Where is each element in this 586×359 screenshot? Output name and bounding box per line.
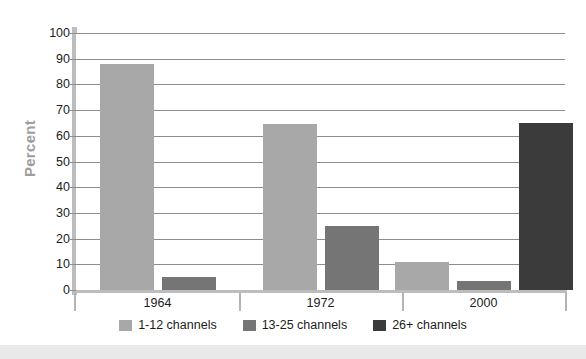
x-axis-group-label: 2000 [470, 296, 498, 310]
gridline [76, 59, 565, 60]
y-axis-tick-mark [70, 33, 76, 34]
x-axis-group-label: 1964 [144, 296, 172, 310]
bottom-band [0, 345, 586, 359]
x-axis-group-label: 1972 [307, 296, 335, 310]
bar [519, 123, 573, 290]
legend-item[interactable]: 13-25 channels [243, 318, 347, 332]
y-axis-tick-mark [70, 110, 76, 111]
legend-swatch-icon [119, 320, 132, 331]
y-axis-tick-mark [70, 264, 76, 265]
y-axis-tick-label: 0 [63, 283, 70, 297]
y-axis-tick-label: 90 [56, 52, 70, 66]
plot-area [76, 33, 565, 290]
legend-label: 13-25 channels [262, 318, 347, 332]
legend-swatch-icon [373, 320, 386, 331]
y-axis-tick-label: 30 [56, 206, 70, 220]
y-axis-tick-label: 80 [56, 77, 70, 91]
y-axis-tick-label: 20 [56, 232, 70, 246]
y-axis-tick-label: 60 [56, 129, 70, 143]
legend-label: 26+ channels [392, 318, 467, 332]
y-axis-tick-mark [70, 162, 76, 163]
y-axis-tick-label: 40 [56, 180, 70, 194]
y-axis-tick-label: 70 [56, 103, 70, 117]
bar [395, 262, 449, 290]
y-axis-tick-mark [70, 290, 76, 291]
y-axis-tick-mark [70, 136, 76, 137]
y-axis-tick-mark [70, 187, 76, 188]
y-axis-tick-label: 50 [56, 155, 70, 169]
y-axis-tick-mark [70, 59, 76, 60]
bar [457, 281, 511, 290]
y-axis-tick-label: 100 [49, 26, 70, 40]
y-axis-tick-mark [70, 84, 76, 85]
y-axis-tick-label: 10 [56, 257, 70, 271]
x-axis-end-separator [565, 293, 567, 311]
gridline [76, 33, 565, 34]
x-axis-group-separator [239, 293, 241, 311]
bar [325, 226, 379, 290]
y-axis-tick-mark [70, 213, 76, 214]
legend-item[interactable]: 26+ channels [373, 318, 467, 332]
legend-label: 1-12 channels [138, 318, 217, 332]
y-axis-tick-labels: 0102030405060708090100 [28, 0, 70, 300]
chart-figure: Percent 0102030405060708090100 196419722… [0, 0, 586, 359]
bar [100, 64, 154, 290]
chart-legend: 1-12 channels13-25 channels26+ channels [0, 318, 586, 332]
legend-item[interactable]: 1-12 channels [119, 318, 217, 332]
legend-swatch-icon [243, 320, 256, 331]
bar [263, 124, 317, 290]
x-axis-start-separator [74, 293, 76, 311]
x-axis-group-separator [402, 293, 404, 311]
bar [162, 277, 216, 290]
y-axis-tick-mark [70, 239, 76, 240]
